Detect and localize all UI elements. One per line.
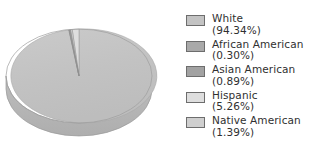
legend-swatch-asian-american [186, 66, 205, 77]
legend-item-asian-american: Asian American (0.89%) [186, 64, 319, 87]
legend-swatch-african-american [186, 41, 205, 52]
legend-item-white: White (94.34%) [186, 13, 319, 36]
legend-item-native-american: Native American (1.39%) [186, 115, 319, 138]
legend-value-hispanic: (5.26%) [212, 101, 319, 113]
legend-text-white: White (94.34%) [212, 13, 319, 36]
legend-swatch-hispanic [186, 92, 205, 103]
legend-text-asian-american: Asian American (0.89%) [212, 64, 319, 87]
legend-text-native-american: Native American (1.39%) [212, 115, 319, 138]
legend-value-african-american: (0.30%) [212, 50, 319, 62]
legend-value-asian-american: (0.89%) [212, 76, 319, 88]
legend-item-hispanic: Hispanic (5.26%) [186, 90, 319, 113]
pie-slice-white [11, 29, 157, 123]
legend-label-white: White [212, 13, 319, 25]
chart-legend: White (94.34%) African American (0.30%) … [186, 13, 319, 141]
legend-label-asian-american: Asian American [212, 64, 319, 76]
legend-value-native-american: (1.39%) [212, 127, 319, 139]
legend-swatch-native-american [186, 117, 205, 128]
legend-item-african-american: African American (0.30%) [186, 39, 319, 62]
legend-text-african-american: African American (0.30%) [212, 39, 319, 62]
legend-text-hispanic: Hispanic (5.26%) [212, 90, 319, 113]
legend-label-native-american: Native American [212, 115, 319, 127]
pie-chart-svg [0, 0, 180, 152]
legend-value-white: (94.34%) [212, 25, 319, 37]
legend-swatch-white [186, 15, 205, 26]
pie-chart-figure: White (94.34%) African American (0.30%) … [0, 0, 319, 152]
pie-chart-plot [0, 0, 180, 152]
